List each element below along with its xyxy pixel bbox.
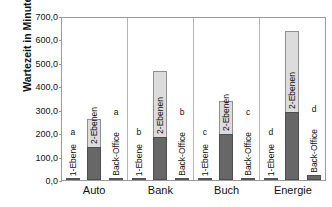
bar-1-ebene[interactable]: 1-Ebeneb bbox=[132, 18, 146, 180]
bar-segment-single[interactable] bbox=[307, 175, 321, 180]
y-axis-tick bbox=[59, 134, 62, 135]
significance-letter: b bbox=[180, 107, 185, 117]
bar-rect[interactable] bbox=[175, 178, 189, 180]
significance-letter: b bbox=[136, 127, 141, 137]
bar-segment-lower[interactable] bbox=[219, 134, 233, 180]
bar-1-ebene[interactable]: 1-Ebened bbox=[264, 18, 278, 180]
bar-back-office[interactable]: Back-Officec bbox=[241, 18, 255, 180]
x-category-label: Auto bbox=[61, 184, 127, 196]
y-tick-label: 600,0 bbox=[14, 35, 58, 45]
bar-label: 2-Ebenen bbox=[219, 94, 233, 131]
bar-2-ebenen[interactable]: 2-Ebenen bbox=[153, 18, 167, 180]
bar-1-ebene[interactable]: 1-Ebenea bbox=[66, 18, 80, 180]
bar-label: Back-Office bbox=[241, 132, 255, 176]
bar-label: 1-Ebene bbox=[264, 144, 278, 176]
bar-back-office[interactable]: Back-Officed bbox=[307, 18, 321, 180]
y-axis-tick bbox=[59, 64, 62, 65]
bar-group-energie: 1-Ebened2-EbenenBack-Officed bbox=[260, 18, 325, 180]
bar-label: 2-Ebenen bbox=[87, 107, 101, 144]
bar-segment-lower[interactable] bbox=[153, 137, 167, 180]
bar-rect[interactable] bbox=[307, 175, 321, 180]
bar-segment-single[interactable] bbox=[175, 178, 189, 180]
bar-group-auto: 1-Ebenea2-EbenenBack-Officea bbox=[62, 18, 128, 180]
bar-group-buch: 1-Ebenec2-EbenenBack-Officec bbox=[194, 18, 260, 180]
y-tick-label: 200,0 bbox=[14, 129, 58, 139]
y-axis-tick bbox=[59, 40, 62, 41]
bar-segment-single[interactable] bbox=[264, 178, 278, 180]
bar-1-ebene[interactable]: 1-Ebenec bbox=[198, 18, 212, 180]
bar-label: 1-Ebene bbox=[132, 144, 146, 176]
significance-letter: d bbox=[268, 127, 273, 137]
bar-label: 1-Ebene bbox=[198, 144, 212, 176]
y-tick-label: 300,0 bbox=[14, 106, 58, 116]
bar-label: 2-Ebenen bbox=[153, 97, 167, 134]
bar-rect[interactable] bbox=[66, 178, 80, 180]
significance-letter: c bbox=[203, 127, 207, 137]
bar-segment-single[interactable] bbox=[198, 178, 212, 180]
y-tick-label: 700,0 bbox=[14, 12, 58, 22]
bar-rect[interactable] bbox=[198, 178, 212, 180]
y-tick-label: 400,0 bbox=[14, 82, 58, 92]
y-axis-tick-labels: 700,0600,0500,0400,0300,0200,0100,00,0 bbox=[14, 0, 58, 207]
bar-group-bank: 1-Ebeneb2-EbenenBack-Officeb bbox=[128, 18, 194, 180]
y-axis-tick bbox=[59, 17, 62, 18]
bar-segment-single[interactable] bbox=[241, 178, 255, 180]
bar-rect[interactable] bbox=[109, 178, 123, 180]
bar-segment-single[interactable] bbox=[132, 178, 146, 180]
y-axis-tick bbox=[59, 158, 62, 159]
bar-back-office[interactable]: Back-Officea bbox=[109, 18, 123, 180]
bar-groups: 1-Ebenea2-EbenenBack-Officea1-Ebeneb2-Eb… bbox=[62, 18, 325, 180]
bar-2-ebenen[interactable]: 2-Ebenen bbox=[285, 18, 299, 180]
significance-letter: a bbox=[70, 127, 75, 137]
bar-segment-lower[interactable] bbox=[285, 112, 299, 180]
x-category-label: Energie bbox=[260, 184, 326, 196]
bar-segment-lower[interactable] bbox=[87, 147, 101, 180]
y-axis-tick bbox=[59, 87, 62, 88]
bar-2-ebenen[interactable]: 2-Ebenen bbox=[219, 18, 233, 180]
y-axis-tick bbox=[59, 111, 62, 112]
bar-segment-single[interactable] bbox=[66, 178, 80, 180]
bar-rect[interactable] bbox=[132, 178, 146, 180]
bar-segment-single[interactable] bbox=[109, 178, 123, 180]
x-axis-category-labels: AutoBankBuchEnergie bbox=[61, 184, 326, 196]
bar-label: Back-Office bbox=[109, 132, 123, 176]
significance-letter: a bbox=[114, 107, 119, 117]
y-axis-tick bbox=[59, 181, 62, 182]
bar-label: Back-Office bbox=[307, 129, 321, 173]
x-category-label: Bank bbox=[127, 184, 193, 196]
y-tick-label: 100,0 bbox=[14, 153, 58, 163]
bar-back-office[interactable]: Back-Officeb bbox=[175, 18, 189, 180]
bar-label: 1-Ebene bbox=[66, 144, 80, 176]
bar-label: 2-Ebenen bbox=[285, 72, 299, 109]
bar-label: Back-Office bbox=[175, 132, 189, 176]
bar-rect[interactable] bbox=[264, 178, 278, 180]
bar-rect[interactable] bbox=[241, 178, 255, 180]
bar-2-ebenen[interactable]: 2-Ebenen bbox=[87, 18, 101, 180]
plot-area: 1-Ebenea2-EbenenBack-Officea1-Ebeneb2-Eb… bbox=[61, 17, 326, 181]
y-tick-label: 500,0 bbox=[14, 59, 58, 69]
x-category-label: Buch bbox=[194, 184, 260, 196]
significance-letter: c bbox=[246, 107, 250, 117]
y-tick-label: 0,0 bbox=[14, 176, 58, 186]
bar-chart: Wartezeit in Minuten 700,0600,0500,0400,… bbox=[0, 0, 332, 207]
significance-letter: d bbox=[312, 104, 317, 114]
